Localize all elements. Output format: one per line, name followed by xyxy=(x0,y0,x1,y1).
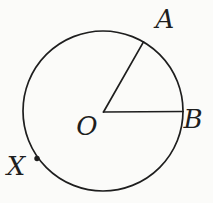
circle-diagram-canvas: A B O X xyxy=(0,0,213,203)
geometry-figure: A B O X xyxy=(0,0,213,203)
label-point-a: A xyxy=(154,4,175,34)
radius-oa-line xyxy=(104,42,144,112)
label-point-b: B xyxy=(182,104,202,134)
label-point-x: X xyxy=(5,151,27,181)
label-center-o: O xyxy=(76,111,97,141)
radius-ob-line xyxy=(104,112,184,113)
point-x-dot xyxy=(34,156,39,161)
